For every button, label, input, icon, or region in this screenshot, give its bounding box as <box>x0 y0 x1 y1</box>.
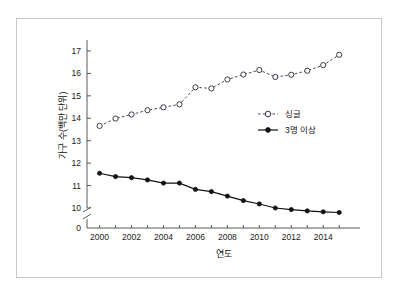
chart-legend: 싱글3명 이상 <box>258 109 316 135</box>
y-tick-label: 16 <box>72 68 82 78</box>
y-axis-title: 가구 수(백만 단위) <box>58 92 68 159</box>
y-tick-label: 17 <box>72 46 82 56</box>
line-chart: 1011121314151617020002002200420062008201… <box>0 0 399 295</box>
legend-label-text: 싱글 <box>285 109 301 119</box>
data-point-marker <box>273 74 278 79</box>
data-point-marker <box>305 209 309 213</box>
data-point-marker <box>177 181 181 185</box>
data-point-marker <box>177 102 182 107</box>
x-axis-title: 연도 <box>216 249 232 259</box>
x-tick-label: 2002 <box>122 232 141 242</box>
axes-group <box>83 40 360 228</box>
y-tick-label: 14 <box>72 113 82 123</box>
data-point-marker <box>225 194 229 198</box>
data-point-marker <box>129 112 134 117</box>
data-point-marker <box>305 68 310 73</box>
data-point-marker <box>241 72 246 77</box>
data-point-marker <box>337 210 341 214</box>
axis-titles-group: 연도가구 수(백만 단위) <box>58 92 232 260</box>
data-point-marker <box>337 52 342 57</box>
data-point-marker <box>225 77 230 82</box>
data-point-marker <box>129 176 133 180</box>
data-point-marker <box>161 181 165 185</box>
y-tick-label: 10 <box>72 203 82 213</box>
data-point-marker <box>289 207 293 211</box>
series-line-1 <box>100 55 340 126</box>
data-point-marker <box>209 190 213 194</box>
data-point-marker <box>257 202 261 206</box>
x-tick-label: 2008 <box>218 232 237 242</box>
x-tick-label: 2012 <box>282 232 301 242</box>
data-point-marker <box>97 171 101 175</box>
data-point-marker <box>321 210 325 214</box>
legend-marker-open-circle <box>265 111 271 117</box>
data-point-marker <box>289 72 294 77</box>
y-tick-label: 15 <box>72 91 82 101</box>
legend-item-single: 싱글 <box>258 109 301 119</box>
legend-marker-filled-circle <box>266 128 271 133</box>
y-tick-label: 11 <box>72 181 81 191</box>
x-tick-label: 2006 <box>186 232 205 242</box>
y-tick-label: 13 <box>72 136 82 146</box>
x-tick-label: 2000 <box>90 232 109 242</box>
data-point-marker <box>257 67 262 72</box>
series-line-2 <box>100 173 340 212</box>
data-point-marker <box>273 206 277 210</box>
x-tick-label: 2004 <box>154 232 173 242</box>
data-point-marker <box>113 116 118 121</box>
x-tick-label: 2010 <box>250 232 269 242</box>
y-tick-label: 12 <box>72 158 82 168</box>
y-tick-label-zero: 0 <box>76 223 81 233</box>
data-point-marker <box>113 174 117 178</box>
figure-root: 1011121314151617020002002200420062008201… <box>0 0 399 295</box>
x-tick-label: 2014 <box>314 232 333 242</box>
data-point-marker <box>209 86 214 91</box>
data-point-marker <box>321 63 326 68</box>
data-point-marker <box>241 199 245 203</box>
data-point-marker <box>97 123 102 128</box>
data-point-marker <box>145 108 150 113</box>
data-point-marker <box>193 85 198 90</box>
axis-break-icon <box>83 214 91 219</box>
data-point-marker <box>193 187 197 191</box>
data-point-marker <box>145 178 149 182</box>
data-point-marker <box>161 105 166 110</box>
legend-item-three-plus: 3명 이상 <box>258 125 316 135</box>
legend-label-text: 3명 이상 <box>285 125 316 135</box>
